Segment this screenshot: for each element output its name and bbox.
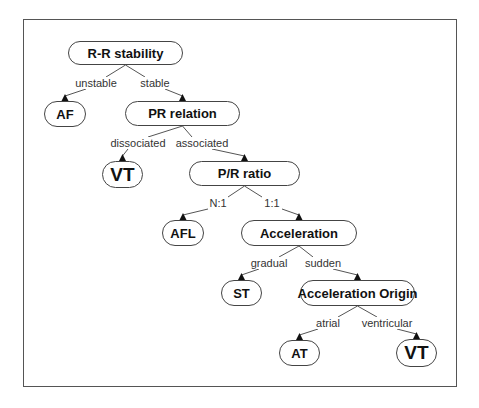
edge-line <box>338 306 358 317</box>
edge-line <box>282 209 299 215</box>
node-label: AFL <box>170 226 195 241</box>
node-pr: PR relation <box>125 101 240 126</box>
edge-line <box>65 89 86 96</box>
node-label: ST <box>233 286 250 301</box>
edge-line <box>358 306 378 317</box>
node-afl: AFL <box>162 220 204 246</box>
node-label: PR relation <box>148 106 217 121</box>
node-at: AT <box>279 340 320 366</box>
edge-line <box>183 209 208 215</box>
node-acc: Acceleration <box>241 220 357 246</box>
edge-line <box>242 269 260 275</box>
edge-label: ventricular <box>361 317 414 329</box>
node-af: AF <box>44 101 86 127</box>
node-rr: R-R stability <box>68 41 183 65</box>
node-st: ST <box>221 280 262 306</box>
node-vt2: VT <box>396 339 437 367</box>
edge-label: dissociated <box>109 137 166 149</box>
node-vt1: VT <box>102 161 143 188</box>
edge-line <box>148 126 183 137</box>
edge-label: unstable <box>74 77 118 89</box>
edge-line <box>212 149 245 156</box>
edge-label: N:1 <box>208 197 227 209</box>
edge-label: stable <box>139 77 170 89</box>
node-label: VT <box>404 342 428 364</box>
edge-line <box>228 186 245 197</box>
node-prratio: P/R ratio <box>189 161 300 186</box>
edge-line <box>333 269 358 275</box>
edge-label: associated <box>175 137 230 149</box>
edge-label: sudden <box>304 257 342 269</box>
edge-line <box>245 186 263 197</box>
node-label: AT <box>291 346 307 361</box>
edge-line <box>123 149 129 156</box>
edge-line <box>299 246 313 257</box>
node-label: AF <box>56 107 73 122</box>
node-label: Acceleration Origin <box>298 286 418 301</box>
edge-line <box>106 65 126 77</box>
node-label: VT <box>110 164 134 186</box>
edge-line <box>279 246 299 257</box>
node-accorig: Acceleration Origin <box>300 280 415 306</box>
edge-line <box>126 65 146 77</box>
edge-label: 1:1 <box>263 197 280 209</box>
edge-line <box>300 329 319 335</box>
edge-line <box>397 329 417 334</box>
node-label: R-R stability <box>88 46 164 61</box>
node-label: P/R ratio <box>218 166 271 181</box>
edge-label: gradual <box>250 257 289 269</box>
node-label: Acceleration <box>260 226 338 241</box>
edge-label: atrial <box>315 317 341 329</box>
edge-line <box>165 89 183 96</box>
edge-line <box>183 126 193 137</box>
